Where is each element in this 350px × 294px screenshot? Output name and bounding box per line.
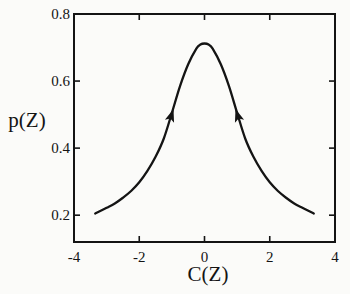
density-flow-chart: -4-20240.20.40.60.8 p(Z) C(Z) bbox=[0, 0, 350, 294]
flow-arrowhead bbox=[231, 107, 244, 122]
y-tick-label: 0.2 bbox=[51, 207, 70, 223]
y-tick-label: 0.8 bbox=[51, 6, 70, 22]
y-axis-title: p(Z) bbox=[8, 108, 45, 133]
x-tick-label: -4 bbox=[68, 249, 81, 265]
x-tick-label: 4 bbox=[331, 249, 339, 265]
y-tick-label: 0.6 bbox=[51, 73, 70, 89]
density-curve bbox=[95, 44, 314, 214]
plot-area: -4-20240.20.40.60.8 bbox=[0, 0, 350, 294]
x-axis-title: C(Z) bbox=[188, 262, 229, 287]
x-tick-label: -2 bbox=[133, 249, 146, 265]
plot-frame bbox=[74, 14, 335, 242]
flow-arrowhead bbox=[165, 107, 178, 122]
x-tick-label: 2 bbox=[266, 249, 274, 265]
y-tick-label: 0.4 bbox=[51, 140, 70, 156]
